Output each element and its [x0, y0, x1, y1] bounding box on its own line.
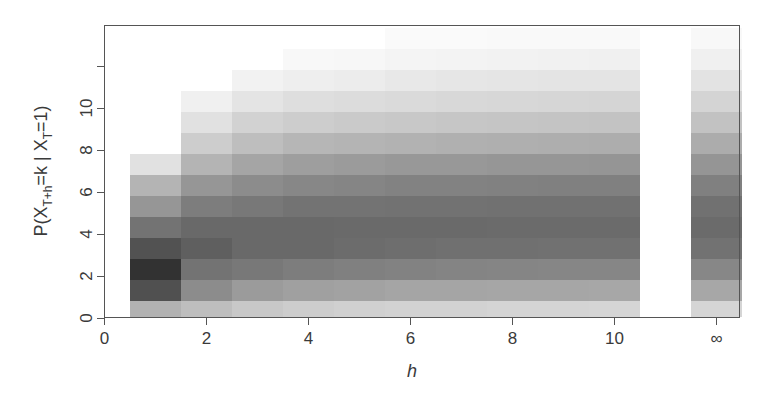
- y-tick: [97, 66, 104, 67]
- x-tick-label: 2: [202, 329, 211, 349]
- y-axis-title: P(XT+h=k | XT=1): [31, 105, 55, 236]
- y-tick-label: 0: [77, 303, 97, 333]
- x-tick: [206, 318, 207, 325]
- y-tick: [97, 234, 104, 235]
- x-tick: [512, 318, 513, 325]
- x-tick-label: 4: [304, 329, 313, 349]
- x-tick-label: 6: [406, 329, 415, 349]
- x-tick-label: 0: [100, 329, 109, 349]
- x-tick-label: 8: [508, 329, 517, 349]
- y-tick: [97, 276, 104, 277]
- x-tick-label: ∞: [710, 329, 722, 349]
- x-tick-label: 10: [605, 329, 624, 349]
- x-tick: [308, 318, 309, 325]
- y-tick: [97, 192, 104, 193]
- x-tick: [104, 318, 105, 325]
- x-tick: [716, 318, 717, 325]
- y-tick-label: 6: [77, 177, 97, 207]
- y-tick: [97, 150, 104, 151]
- y-tick-label: 8: [77, 135, 97, 165]
- x-axis-title: h: [407, 361, 417, 382]
- x-tick: [410, 318, 411, 325]
- y-tick: [97, 318, 104, 319]
- x-tick: [614, 318, 615, 325]
- y-tick: [97, 108, 104, 109]
- y-tick-label: 10: [77, 93, 97, 123]
- heatmap-plot-area: [104, 25, 740, 318]
- y-tick-label: 4: [77, 219, 97, 249]
- y-tick-label: 2: [77, 261, 97, 291]
